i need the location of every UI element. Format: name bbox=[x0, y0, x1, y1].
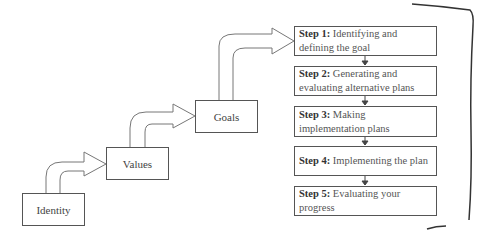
arrow-goals-to-steps bbox=[219, 28, 294, 100]
step-3-box: Step 3: Making implementation plans bbox=[294, 106, 437, 137]
values-box: Values bbox=[106, 147, 169, 180]
identity-label: Identity bbox=[36, 204, 70, 216]
step-5-box: Step 5: Evaluating your progress bbox=[294, 186, 437, 216]
step-1-prefix: Step 1: bbox=[299, 28, 330, 39]
arrow-identity-to-values bbox=[46, 152, 106, 193]
step-2-prefix: Step 2: bbox=[299, 68, 330, 79]
step-1-box: Step 1: Identifying and defining the goa… bbox=[294, 26, 437, 56]
step-3-prefix: Step 3: bbox=[299, 109, 330, 120]
values-label: Values bbox=[123, 158, 152, 170]
identity-box: Identity bbox=[22, 193, 85, 226]
step-5-prefix: Step 5: bbox=[299, 188, 330, 199]
goals-label: Goals bbox=[214, 111, 240, 123]
step-4-prefix: Step 4: bbox=[299, 155, 330, 166]
step-2-box: Step 2: Generating and evaluating altern… bbox=[294, 66, 437, 96]
step-4-box: Step 4: Implementing the plan bbox=[294, 146, 437, 176]
arrow-values-to-goals bbox=[130, 104, 195, 147]
goals-box: Goals bbox=[195, 100, 258, 133]
step-4-text: Implementing the plan bbox=[330, 155, 428, 166]
